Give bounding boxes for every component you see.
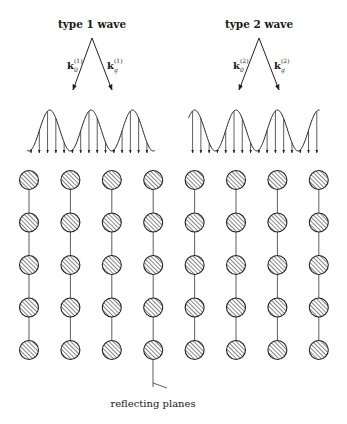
atom (227, 341, 246, 360)
type2-wave-title: type 2 wave (225, 18, 294, 30)
atom (61, 256, 80, 275)
type1-standing-wave (27, 110, 155, 153)
type2-kg-label: k (2) g (274, 57, 290, 74)
atom (144, 213, 163, 232)
atom (185, 213, 204, 232)
atom (309, 298, 328, 317)
atom (185, 298, 204, 317)
type2-standing-wave (189, 110, 320, 153)
atom (20, 341, 39, 360)
atom (268, 341, 287, 360)
atom (185, 341, 204, 360)
crystal-lattice (20, 171, 329, 360)
atom (268, 298, 287, 317)
type1-k0-vector (73, 38, 92, 90)
atom (20, 213, 39, 232)
atom (185, 256, 204, 275)
svg-text:g: g (281, 66, 285, 74)
atom (309, 213, 328, 232)
type1-kg-label: k (1) g (107, 57, 123, 74)
atom (61, 213, 80, 232)
atom (185, 171, 204, 190)
svg-text:0: 0 (240, 66, 244, 73)
atom (268, 171, 287, 190)
atom (61, 341, 80, 360)
atom (102, 256, 121, 275)
atom (144, 341, 163, 360)
reflecting-planes-caption: reflecting planes (110, 398, 195, 409)
atom (102, 298, 121, 317)
reflecting-planes-annotation: reflecting planes (110, 360, 195, 409)
atom (20, 171, 39, 190)
svg-text:g: g (114, 66, 118, 74)
atom (227, 213, 246, 232)
atom (227, 171, 246, 190)
standing-wave-diagram: type 1 wave k (1) 0 k (1) g type 2 wave … (0, 0, 347, 424)
atom (61, 171, 80, 190)
standing-wave-curve (27, 110, 155, 151)
atom (102, 341, 121, 360)
atom (227, 256, 246, 275)
atom (227, 298, 246, 317)
svg-text:(2): (2) (240, 57, 249, 64)
type2-k0-vector (239, 38, 259, 90)
svg-text:(1): (1) (114, 57, 123, 64)
atom (144, 256, 163, 275)
atom (20, 298, 39, 317)
atom (102, 213, 121, 232)
atom (309, 256, 328, 275)
atom (268, 213, 287, 232)
atom (61, 298, 80, 317)
atom (20, 256, 39, 275)
atom (144, 298, 163, 317)
atom (309, 171, 328, 190)
atom (102, 171, 121, 190)
atom (268, 256, 287, 275)
svg-text:(1): (1) (74, 57, 83, 64)
reflecting-planes-pointer-tick (153, 383, 167, 388)
svg-text:(2): (2) (281, 57, 290, 64)
svg-text:0: 0 (74, 66, 78, 73)
type1-wave-title: type 1 wave (58, 18, 127, 30)
type2-wave-group: type 2 wave k (2) 0 k (2) g (189, 18, 320, 153)
atom (309, 341, 328, 360)
standing-wave-curve (189, 110, 320, 151)
type1-wave-group: type 1 wave k (1) 0 k (1) g (27, 18, 155, 153)
atom (144, 171, 163, 190)
